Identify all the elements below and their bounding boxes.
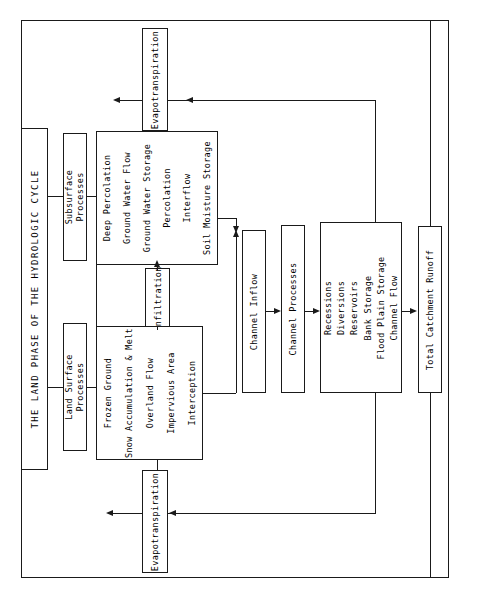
channel-inflow-box: Channel Inflow [242,230,266,393]
connector-subsurface-label-to-content [87,196,96,197]
total-catchment-runoff-box: Total Catchment Runoff [418,226,442,393]
total-catchment-runoff-label: Total Catchment Runoff [425,249,436,369]
channel-processes-box: Channel Processes [281,225,305,393]
land-surface-item: Impervious Area [160,327,181,459]
arrowhead-channel-inflow-to-processes [274,308,281,314]
connector-land-surface-to-infiltration [157,326,158,330]
connector-channel-to-evap-bottom [375,393,376,514]
connector-process-left-rail [96,196,97,387]
connector-land-surface-to-evap-bottom [157,460,158,471]
connector-land-surface-label-to-content [87,387,96,388]
connector-runoff-to-frame-top [430,20,431,226]
channel-item: Channel Flow [388,223,401,392]
outer-frame-bottom [21,577,449,578]
arrowhead-land-surface-to-channel-inflow [233,230,239,237]
subsurface-item: Interflow [177,132,197,264]
subsurface-processes-line1: Subsurface [64,170,74,225]
arrowhead-evap-top-in [186,97,193,103]
subsurface-processes-label: Subsurface Processes [64,170,86,225]
connector-evap-top-out [117,100,142,101]
outer-frame-right [448,20,449,578]
land-surface-item: Frozen Ground [97,327,118,459]
land-surface-processes-box: Land Surface Processes [63,323,87,451]
land-surface-item: Overland Flow [139,327,160,459]
subsurface-item: Ground Water Storage [137,132,157,264]
diagram-title-frame: THE LAND PHASE OF THE HYDROLOGIC CYCLE [21,128,48,470]
page-title: THE LAND PHASE OF THE HYDROLOGIC CYCLE [30,169,40,428]
connector-channel-to-evap-top [375,100,376,222]
land-surface-processes-content-box: Interception Impervious Area Overland Fl… [96,326,203,460]
subsurface-processes-content-box: Soil Moisture Storage Interflow Percolat… [96,131,218,265]
channel-item: Bank Storage [361,223,374,392]
evapotranspiration-top-box: Evapotranspiration [142,28,168,131]
arrowhead-evap-bottom-out [106,510,113,516]
channel-inflow-label: Channel Inflow [249,273,260,350]
channel-item: Reservoirs [348,223,361,392]
connector-land-surface-to-channel-inflow-h [203,393,236,394]
connector-title-to-subsurface [48,196,63,197]
channel-content-box: Channel Flow Flood Plain Storage Bank St… [320,222,402,393]
arrowhead-channel-processes-to-content [313,308,320,314]
subsurface-item: Deep Percolation [97,132,117,264]
hydrologic-cycle-diagram: THE LAND PHASE OF THE HYDROLOGIC CYCLE E… [0,0,481,598]
arrowhead-infiltration-to-subsurface [154,260,160,267]
subsurface-item: Soil Moisture Storage [197,132,217,264]
arrowhead-channel-to-runoff [410,308,417,314]
land-surface-item: Snow Accumulation & Melt [118,327,139,459]
channel-item: Recessions [321,223,334,392]
subsurface-processes-line2: Processes [75,172,85,221]
subsurface-item: Percolation [157,132,177,264]
connector-subsurface-to-channel-inflow-h [218,218,236,219]
channel-processes-label: Channel Processes [288,263,299,356]
evapotranspiration-bottom-box: Evapotranspiration [142,470,168,573]
land-surface-processes-line2: Processes [75,362,85,411]
arrowhead-evap-bottom-in [169,510,176,516]
arrowhead-evap-top-out [113,97,120,103]
subsurface-processes-box: Subsurface Processes [63,133,87,261]
land-surface-processes-label: Land Surface Processes [64,354,86,420]
infiltration-label: Infiltration [152,266,163,332]
outer-frame-top [21,20,449,21]
connector-title-to-land-surface [48,387,63,388]
connector-evap-bottom-out [110,513,142,514]
evapotranspiration-bottom-label: Evapotranspiration [150,472,161,570]
land-surface-item: Interception [181,327,202,459]
connector-land-surface-to-channel-inflow-v [236,236,237,393]
connector-spacer-b [157,131,158,132]
subsurface-item: Ground Water Flow [117,132,137,264]
infiltration-box: Infiltration [145,268,170,330]
connector-evap-top-in [168,100,376,101]
land-surface-processes-line1: Land Surface [64,354,74,420]
connector-runoff-to-frame-bottom [430,393,431,577]
channel-item: Flood Plain Storage [374,223,387,392]
channel-item: Diversions [334,223,347,392]
connector-evap-bottom-in [168,513,376,514]
evapotranspiration-top-label: Evapotranspiration [150,30,161,128]
